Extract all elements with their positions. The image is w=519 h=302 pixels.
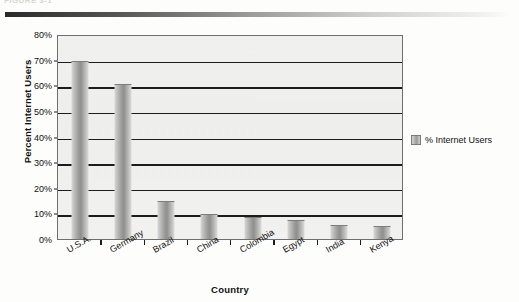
bar	[71, 61, 88, 239]
bar-slot	[188, 36, 231, 239]
figure-caption: FIGURE 3-1	[4, 0, 52, 5]
bar-slot	[361, 36, 404, 239]
x-tick-mark	[273, 240, 274, 245]
chart-legend: % Internet Users	[411, 135, 492, 145]
bars-group	[58, 36, 402, 239]
legend-swatch-icon	[411, 135, 421, 145]
y-tick-label: 60%	[34, 81, 52, 91]
x-tick-mark	[230, 240, 231, 245]
x-axis-title: Country	[57, 284, 403, 295]
x-tick-mark	[144, 240, 145, 245]
bar-slot	[231, 36, 274, 239]
y-tick-label: 10%	[34, 209, 52, 219]
header-gradient-rule	[5, 12, 511, 17]
bar-slot	[58, 36, 101, 239]
bar-slot	[318, 36, 361, 239]
bar-slot	[274, 36, 317, 239]
bar	[158, 201, 175, 239]
x-tick-mark	[360, 240, 361, 245]
y-tick-label: 50%	[34, 107, 52, 117]
bar-chart-figure: Percent Internet Users 80%70%60%50%40%30…	[0, 18, 519, 302]
x-tick-mark	[317, 240, 318, 245]
y-tick-label: 0%	[39, 235, 52, 245]
y-tick-label: 80%	[34, 30, 52, 40]
y-tick-label: 20%	[34, 184, 52, 194]
bar-slot	[145, 36, 188, 239]
bar-slot	[101, 36, 144, 239]
y-tick-label: 30%	[34, 158, 52, 168]
y-tick-label: 40%	[34, 133, 52, 143]
bar	[114, 84, 131, 239]
x-tick-mark	[187, 240, 188, 245]
x-tick-mark	[100, 240, 101, 245]
y-axis-tick-labels: 80%70%60%50%40%30%20%10%0%	[20, 24, 52, 254]
legend-label: % Internet Users	[425, 135, 492, 145]
y-tick-label: 70%	[34, 56, 52, 66]
plot-area	[57, 35, 403, 240]
